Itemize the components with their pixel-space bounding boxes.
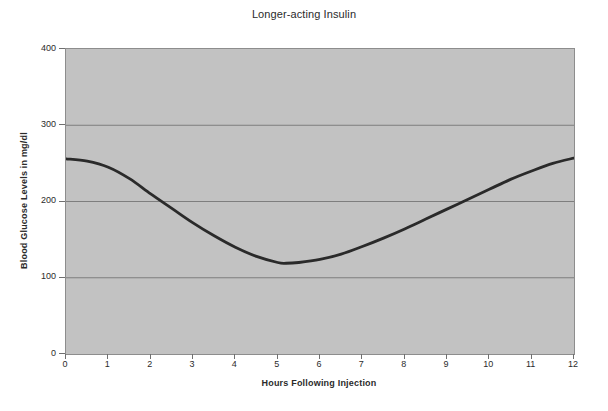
x-tick-label: 5 bbox=[274, 360, 279, 369]
x-tick-label: 7 bbox=[359, 360, 364, 369]
y-tick-label: 100 bbox=[0, 272, 56, 281]
x-tick-label: 12 bbox=[568, 360, 578, 369]
x-tick-label: 0 bbox=[62, 360, 67, 369]
x-tick-label: 11 bbox=[526, 360, 535, 369]
data-series-line bbox=[66, 158, 574, 263]
series-line-blood-glucose bbox=[66, 158, 574, 263]
plot-area bbox=[65, 48, 575, 355]
gridlines bbox=[66, 125, 574, 278]
x-tick-label: 2 bbox=[147, 360, 152, 369]
x-tick-label: 8 bbox=[401, 360, 406, 369]
x-tick-label: 1 bbox=[105, 360, 110, 369]
x-tick-label: 3 bbox=[189, 360, 194, 369]
y-axis-tick-labels: 0100200300400 bbox=[0, 0, 58, 411]
y-tick-label: 400 bbox=[0, 44, 56, 53]
x-tick-label: 6 bbox=[316, 360, 321, 369]
y-tick-label: 200 bbox=[0, 196, 56, 205]
x-tick-label: 9 bbox=[443, 360, 448, 369]
x-axis-title: Hours Following Injection bbox=[65, 378, 573, 388]
x-axis-tick-labels: 0123456789101112 bbox=[0, 360, 608, 374]
x-tick-label: 4 bbox=[232, 360, 237, 369]
y-tick-label: 300 bbox=[0, 120, 56, 129]
chart-title: Longer-acting Insulin bbox=[0, 8, 608, 20]
plot-svg bbox=[66, 49, 574, 354]
x-tick-label: 10 bbox=[483, 360, 493, 369]
chart-figure: Longer-acting Insulin Blood Glucose Leve… bbox=[0, 0, 608, 411]
